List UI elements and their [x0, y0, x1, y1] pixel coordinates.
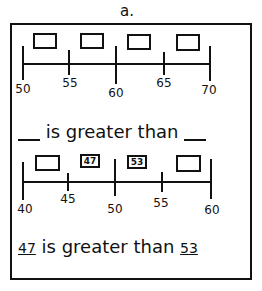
minor-tick: [67, 173, 69, 191]
answer-box-filled[interactable]: 53: [127, 155, 147, 169]
major-tick: [115, 46, 117, 84]
minor-tick: [161, 172, 163, 192]
comparison-sentence-2: 47 is greater than 53: [18, 236, 198, 257]
tick-label: 45: [60, 192, 75, 206]
answer-box[interactable]: [33, 33, 57, 49]
axis-line: [23, 181, 212, 183]
answer-box[interactable]: [35, 155, 60, 171]
minor-tick: [163, 52, 165, 75]
tick-label: 50: [107, 202, 122, 216]
tick-label: 55: [62, 76, 77, 90]
tick-label: 70: [201, 83, 216, 97]
tick-label: 40: [17, 202, 32, 216]
tick-label: 60: [204, 203, 219, 217]
sentence-text: is greater than: [46, 121, 179, 142]
sentence-text: is greater than: [42, 236, 175, 257]
answer-box[interactable]: [176, 34, 200, 51]
tick-label: 50: [15, 82, 30, 96]
major-tick: [22, 46, 24, 80]
minor-tick: [68, 50, 70, 75]
tick-label: 60: [108, 86, 123, 100]
left-blank[interactable]: [18, 125, 40, 141]
answer-box-filled[interactable]: 47: [80, 154, 100, 168]
worksheet-title: a.: [120, 2, 134, 20]
tick-label: 55: [153, 196, 168, 210]
right-blank[interactable]: [184, 125, 206, 141]
major-tick: [114, 159, 116, 196]
major-tick: [209, 46, 211, 81]
major-tick: [22, 162, 24, 200]
answer-box[interactable]: [127, 34, 151, 50]
answer-box[interactable]: [176, 155, 201, 172]
tick-label: 65: [156, 76, 171, 90]
answer-box[interactable]: [80, 33, 104, 49]
comparison-sentence-1: is greater than: [18, 121, 206, 142]
major-tick: [210, 159, 212, 199]
left-answer[interactable]: 47: [18, 240, 36, 256]
right-answer[interactable]: 53: [180, 240, 198, 256]
